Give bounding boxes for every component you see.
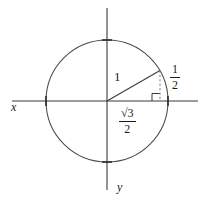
fraction-sqrt3-over-2: √3 2 xyxy=(119,107,136,135)
horizontal-leg-fraction-label: √3 2 xyxy=(119,107,136,135)
radius-length-label: 1 xyxy=(114,70,121,83)
unit-circle-figure: x y 1 1 2 √3 2 xyxy=(0,0,207,205)
x-axis-label: x xyxy=(11,101,16,113)
y-axis-label: y xyxy=(117,181,122,193)
fraction-one-half: 1 2 xyxy=(170,63,180,91)
vertical-leg-fraction-label: 1 2 xyxy=(170,63,180,91)
right-angle-marker xyxy=(152,94,160,102)
fraction-numerator: 1 xyxy=(170,63,180,76)
fraction-numerator-radical: √3 xyxy=(119,107,136,120)
fraction-denominator: 2 xyxy=(119,123,136,136)
unit-circle-svg xyxy=(0,0,207,205)
fraction-denominator: 2 xyxy=(170,79,180,92)
